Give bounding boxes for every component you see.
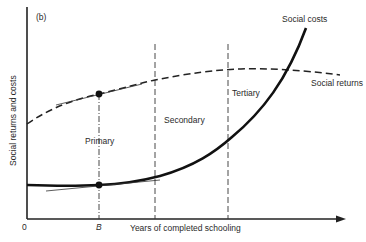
y-axis-label: Social returns and costs [9,75,18,166]
origin-label: 0 [22,223,27,232]
returns-point-b [96,91,103,98]
panel-label: (b) [36,13,46,22]
region-label-tertiary: Tertiary [232,89,260,98]
social-costs-label: Social costs [282,15,327,24]
region-label-primary: Primary [85,137,114,146]
social-returns-label: Social returns [311,79,363,88]
x-axis-arrow-icon [336,216,346,223]
social-costs-curve [27,28,306,186]
x-axis-label: Years of completed schooling [130,224,241,233]
costs-point-b [96,182,103,189]
region-label-secondary: Secondary [164,116,205,125]
b-label: B [96,223,102,232]
